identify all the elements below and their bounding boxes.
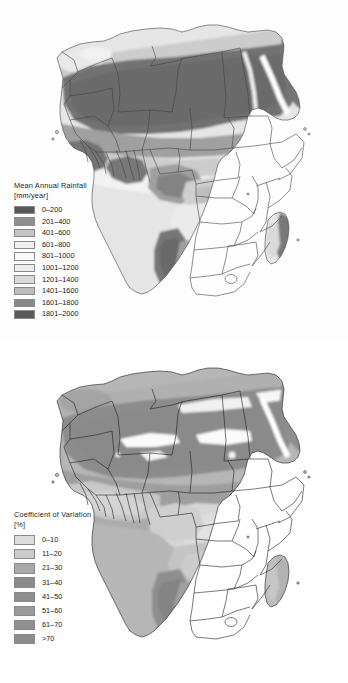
legend-swatch-11-20	[14, 549, 35, 559]
legend-row: 401–600	[14, 227, 87, 239]
legend-row: 1801–2000	[14, 309, 87, 321]
legend-label: 1801–2000	[42, 310, 79, 318]
legend-row: 0–200	[14, 204, 87, 216]
legend-row: 31–40	[14, 575, 91, 589]
legend-items-rainfall: 0–200 201–400 401–600 601–800 801–1000	[14, 204, 87, 320]
legend-label: 401–600	[42, 229, 70, 237]
legend-label: 31–40	[42, 579, 62, 587]
legend-label: 1601–1800	[42, 299, 79, 307]
legend-row: 0–10	[14, 533, 91, 547]
legend-swatch-401-600	[14, 229, 35, 237]
legend-row: 41–50	[14, 590, 91, 604]
figure-two-africa-maps: Mean Annual Rainfall [mm/year] 0–200 201…	[0, 0, 348, 683]
legend-swatch-21-30	[14, 563, 35, 573]
legend-row: 201–400	[14, 216, 87, 228]
legend-swatch-1601-1800	[14, 299, 35, 307]
legend-label: 1001–1200	[42, 264, 79, 272]
legend-label: 601–800	[42, 241, 70, 249]
legend-label: 61–70	[42, 621, 62, 629]
legend-row: 51–60	[14, 604, 91, 618]
legend-items-cv: 0–10 11–20 21–30 31–40 41–50	[14, 533, 91, 646]
legend-title-line1: Mean Annual Rainfall	[14, 181, 87, 191]
legend-swatch-1401-1600	[14, 287, 35, 295]
legend-swatch-61-70	[14, 620, 35, 630]
legend-swatch-0-10	[14, 535, 35, 545]
legend-swatch-41-50	[14, 592, 35, 602]
legend-swatch-201-400	[14, 217, 35, 225]
legend-label: 801–1000	[42, 252, 74, 260]
legend-row: 601–800	[14, 239, 87, 251]
legend-row: 801–1000	[14, 251, 87, 263]
legend-label: 0–10	[42, 536, 58, 544]
legend-label: 51–60	[42, 607, 62, 615]
legend-row: 21–30	[14, 561, 91, 575]
legend-coefficient-of-variation: Coefficient of Variation [%] 0–10 11–20 …	[14, 510, 91, 646]
legend-swatch-1001-1200	[14, 264, 35, 272]
legend-label: >70	[42, 635, 54, 643]
legend-swatch-0-200	[14, 206, 35, 214]
legend-swatch-1801-2000	[14, 310, 35, 318]
legend-title-line1: Coefficient of Variation	[14, 510, 91, 520]
legend-row: 61–70	[14, 618, 91, 632]
africa-coefficient-of-variation-map: Coefficient of Variation [%] 0–10 11–20 …	[0, 343, 348, 683]
legend-label: 11–20	[42, 550, 62, 558]
legend-title-line2: [%]	[14, 520, 91, 530]
legend-swatch-601-800	[14, 241, 35, 249]
legend-label: 201–400	[42, 218, 70, 226]
legend-row: >70	[14, 632, 91, 646]
legend-label: 21–30	[42, 564, 62, 572]
legend-swatch-gt70	[14, 634, 35, 644]
africa-mean-annual-rainfall-map: Mean Annual Rainfall [mm/year] 0–200 201…	[0, 0, 348, 340]
legend-label: 0–200	[42, 206, 62, 214]
legend-swatch-801-1000	[14, 252, 35, 260]
legend-row: 11–20	[14, 547, 91, 561]
legend-row: 1401–1600	[14, 285, 87, 297]
legend-row: 1201–1400	[14, 274, 87, 286]
legend-swatch-1201-1400	[14, 275, 35, 283]
legend-title-line2: [mm/year]	[14, 191, 87, 201]
legend-swatch-51-60	[14, 606, 35, 616]
legend-label: 1401–1600	[42, 287, 79, 295]
legend-swatch-31-40	[14, 577, 35, 587]
legend-row: 1601–1800	[14, 297, 87, 309]
legend-mean-annual-rainfall: Mean Annual Rainfall [mm/year] 0–200 201…	[14, 181, 87, 320]
legend-label: 1201–1400	[42, 276, 79, 284]
legend-row: 1001–1200	[14, 262, 87, 274]
legend-label: 41–50	[42, 593, 62, 601]
